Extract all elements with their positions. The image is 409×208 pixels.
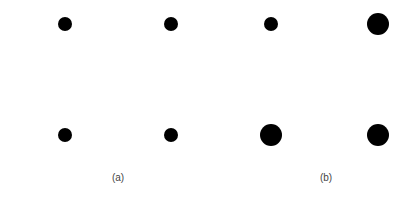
panel-a-dot-bottom-right bbox=[164, 128, 178, 142]
panel-a-label: (a) bbox=[112, 172, 124, 183]
panel-a-dot-top-left bbox=[58, 17, 72, 31]
panel-b-dot-bottom-right bbox=[367, 124, 389, 146]
panel-b-dot-top-left bbox=[264, 17, 278, 31]
panel-a-dot-top-right bbox=[164, 17, 178, 31]
panel-a-dot-bottom-left bbox=[58, 128, 72, 142]
panel-b-dot-top-right bbox=[367, 13, 389, 35]
panel-b-label: (b) bbox=[320, 172, 332, 183]
panel-b-dot-bottom-left bbox=[260, 124, 282, 146]
